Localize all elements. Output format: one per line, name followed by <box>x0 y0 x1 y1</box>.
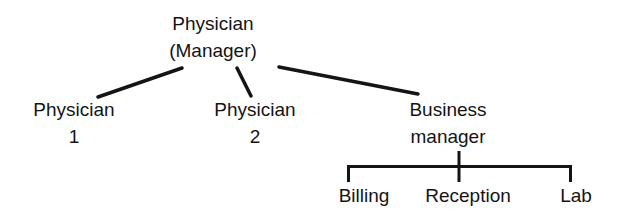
node-label-line: Lab <box>560 182 592 209</box>
node-label-line: Physician <box>33 96 114 123</box>
edge-manager-to-business-manager <box>279 67 418 94</box>
node-label-line: Reception <box>425 182 511 209</box>
node-label-line: 2 <box>214 123 295 150</box>
edge-manager-to-physician-2 <box>237 68 251 96</box>
edge-manager-to-physician-1 <box>98 68 182 97</box>
node-lab: Lab <box>560 182 592 209</box>
node-label-line: Physician <box>169 10 257 37</box>
node-label-line: Physician <box>214 96 295 123</box>
org-chart: Physician (Manager) Physician 1 Physicia… <box>0 0 622 217</box>
business-manager-bracket <box>347 151 572 182</box>
node-business-manager: Business manager <box>409 96 486 150</box>
node-label-line: 1 <box>33 123 114 150</box>
node-label-line: manager <box>409 123 486 150</box>
node-label-line: (Manager) <box>169 37 257 64</box>
node-physician-2: Physician 2 <box>214 96 295 150</box>
node-reception: Reception <box>425 182 511 209</box>
node-label-line: Business <box>409 96 486 123</box>
node-label-line: Billing <box>339 182 390 209</box>
node-physician-1: Physician 1 <box>33 96 114 150</box>
node-billing: Billing <box>339 182 390 209</box>
node-physician-manager: Physician (Manager) <box>169 10 257 64</box>
